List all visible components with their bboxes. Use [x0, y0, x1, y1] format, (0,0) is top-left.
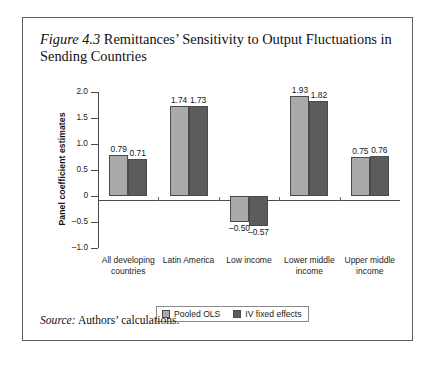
- bar: [290, 96, 309, 196]
- bar: [170, 106, 189, 196]
- x-axis-tick-mark: [340, 197, 341, 201]
- source-text: Authors’ calculations.: [76, 314, 180, 327]
- y-axis-tick-mark: [91, 222, 98, 223]
- y-axis-tick: 2.0: [91, 92, 98, 93]
- bar: [189, 106, 208, 196]
- source-note: Source: Authors’ calculations.: [40, 314, 179, 327]
- legend-label-pooled-ols: Pooled OLS: [174, 309, 220, 319]
- bar: [309, 101, 328, 196]
- figure-number: Figure 4.3: [40, 31, 100, 47]
- y-axis-tick-label: 2.0: [76, 86, 88, 96]
- category-label-line: income: [340, 266, 400, 277]
- bar: [109, 155, 128, 196]
- bar: [370, 156, 389, 196]
- bar: [351, 157, 370, 196]
- figure-container: Figure 4.3 Remittances’ Sensitivity to O…: [22, 17, 413, 341]
- bar-value-label: 1.82: [303, 90, 334, 100]
- legend-label-iv-fixed-effects: IV fixed effects: [245, 309, 301, 319]
- x-axis-tick-mark: [158, 197, 159, 201]
- bar-value-label: 1.73: [183, 95, 214, 105]
- legend-swatch-icon-iv-fixed-effects: [233, 310, 241, 318]
- y-axis-tick-mark: [91, 118, 98, 119]
- figure-title: Figure 4.3 Remittances’ Sensitivity to O…: [40, 31, 392, 64]
- legend-item-iv-fixed-effects: IV fixed effects: [233, 309, 301, 319]
- y-axis-title-text: Panel coefficient estimates: [57, 112, 67, 225]
- y-axis-tick: 0: [91, 196, 98, 197]
- y-axis-tick-mark: [91, 248, 98, 249]
- y-axis-tick: 0.5: [91, 170, 98, 171]
- category-label: Upper middleincome: [340, 255, 400, 276]
- y-axis-tick: –1.0: [91, 248, 98, 249]
- category-label-line: Lower middle: [279, 255, 339, 266]
- category-label: Lower middleincome: [279, 255, 339, 276]
- category-label-line: Low income: [219, 255, 279, 266]
- bar: [128, 159, 147, 196]
- category-label-line: Upper middle: [340, 255, 400, 266]
- category-label: Latin America: [158, 255, 218, 266]
- y-axis-line: [98, 92, 99, 248]
- y-axis-tick-label: 0.5: [76, 164, 88, 174]
- y-axis-tick-label: 0: [83, 190, 88, 200]
- y-axis-tick-label: 1.5: [76, 112, 88, 122]
- bar: [249, 196, 268, 226]
- y-axis-tick-label: 1.0: [76, 138, 88, 148]
- y-axis-tick: 1.0: [91, 144, 98, 145]
- y-axis-tick-mark: [91, 196, 98, 197]
- chart-plot-area: Panel coefficient estimates 2.01.51.00.5…: [61, 91, 401, 253]
- y-axis-tick-mark: [91, 144, 98, 145]
- x-axis-tick-mark: [279, 197, 280, 201]
- category-label-line: countries: [98, 266, 158, 277]
- bar-value-label: –0.57: [243, 227, 274, 237]
- category-label-line: Latin America: [158, 255, 218, 266]
- y-axis-tick-mark: [91, 92, 98, 93]
- bar-value-label: 0.76: [364, 145, 395, 155]
- category-label: Low income: [219, 255, 279, 266]
- y-axis-title: Panel coefficient estimates: [55, 91, 69, 247]
- category-label: All developingcountries: [98, 255, 158, 276]
- y-axis-tick-label: –0.5: [72, 216, 88, 226]
- y-axis-tick: –0.5: [91, 222, 98, 223]
- y-axis-tick: 1.5: [91, 118, 98, 119]
- source-keyword: Source:: [40, 314, 76, 327]
- y-axis-tick-label: –1.0: [72, 242, 88, 252]
- y-axis-tick-mark: [91, 170, 98, 171]
- x-axis-tick-mark: [219, 197, 220, 201]
- category-label-line: income: [279, 266, 339, 277]
- bar: [230, 196, 249, 222]
- category-label-line: All developing: [98, 255, 158, 266]
- bar-value-label: 0.71: [122, 148, 153, 158]
